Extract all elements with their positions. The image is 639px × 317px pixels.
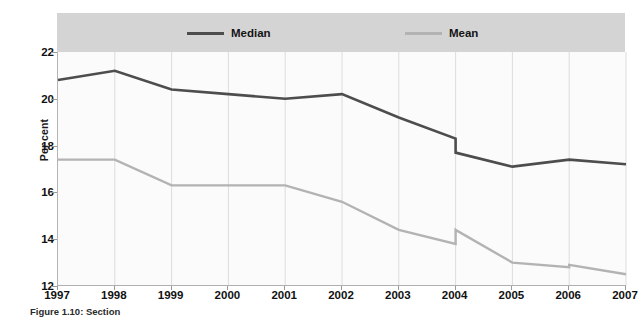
legend-entry-mean[interactable]: Mean (405, 25, 478, 41)
x-tick-mark-2004 (455, 286, 456, 290)
x-axis-tick-1997: 1997 (35, 289, 79, 301)
x-tick-mark-2003 (398, 286, 399, 290)
y-tick-mark-14 (51, 239, 57, 240)
x-axis-tick-2005: 2005 (489, 289, 533, 301)
legend-line-swatch-median (187, 32, 224, 35)
data-series-layer (58, 52, 626, 286)
x-axis-tick-2007: 2007 (603, 289, 639, 301)
legend-line-swatch-mean (405, 32, 442, 35)
legend-label-median: Median (231, 27, 271, 39)
x-tick-mark-2005 (511, 286, 512, 290)
y-tick-mark-22 (51, 52, 57, 53)
figure-caption: Figure 1.10: Section (30, 306, 120, 317)
x-tick-mark-2002 (341, 286, 342, 290)
legend-label-mean: Mean (449, 27, 478, 39)
x-axis-tick-1999: 1999 (149, 289, 193, 301)
series-line-mean (58, 160, 626, 275)
plot-area (57, 52, 626, 286)
x-tick-mark-2006 (568, 286, 569, 290)
x-axis-tick-2004: 2004 (433, 289, 477, 301)
series-line-median (58, 71, 626, 167)
x-tick-mark-2007 (625, 286, 626, 290)
legend-entry-median[interactable]: Median (187, 25, 271, 41)
y-tick-mark-16 (51, 192, 57, 193)
y-tick-mark-20 (51, 99, 57, 100)
x-tick-mark-1998 (114, 286, 115, 290)
x-axis-tick-2006: 2006 (546, 289, 590, 301)
x-tick-mark-2001 (284, 286, 285, 290)
x-tick-mark-1997 (57, 286, 58, 290)
y-axis-tick-labels: 222018161412 (26, 0, 54, 316)
x-axis-tick-1998: 1998 (92, 289, 136, 301)
y-tick-mark-18 (51, 146, 57, 147)
x-axis-tick-2003: 2003 (376, 289, 420, 301)
x-tick-mark-2000 (227, 286, 228, 290)
x-axis-tick-2001: 2001 (262, 289, 306, 301)
x-tick-mark-1999 (171, 286, 172, 290)
chart-legend: Median Mean (57, 13, 625, 52)
x-axis-tick-2002: 2002 (319, 289, 363, 301)
x-axis-tick-2000: 2000 (205, 289, 249, 301)
